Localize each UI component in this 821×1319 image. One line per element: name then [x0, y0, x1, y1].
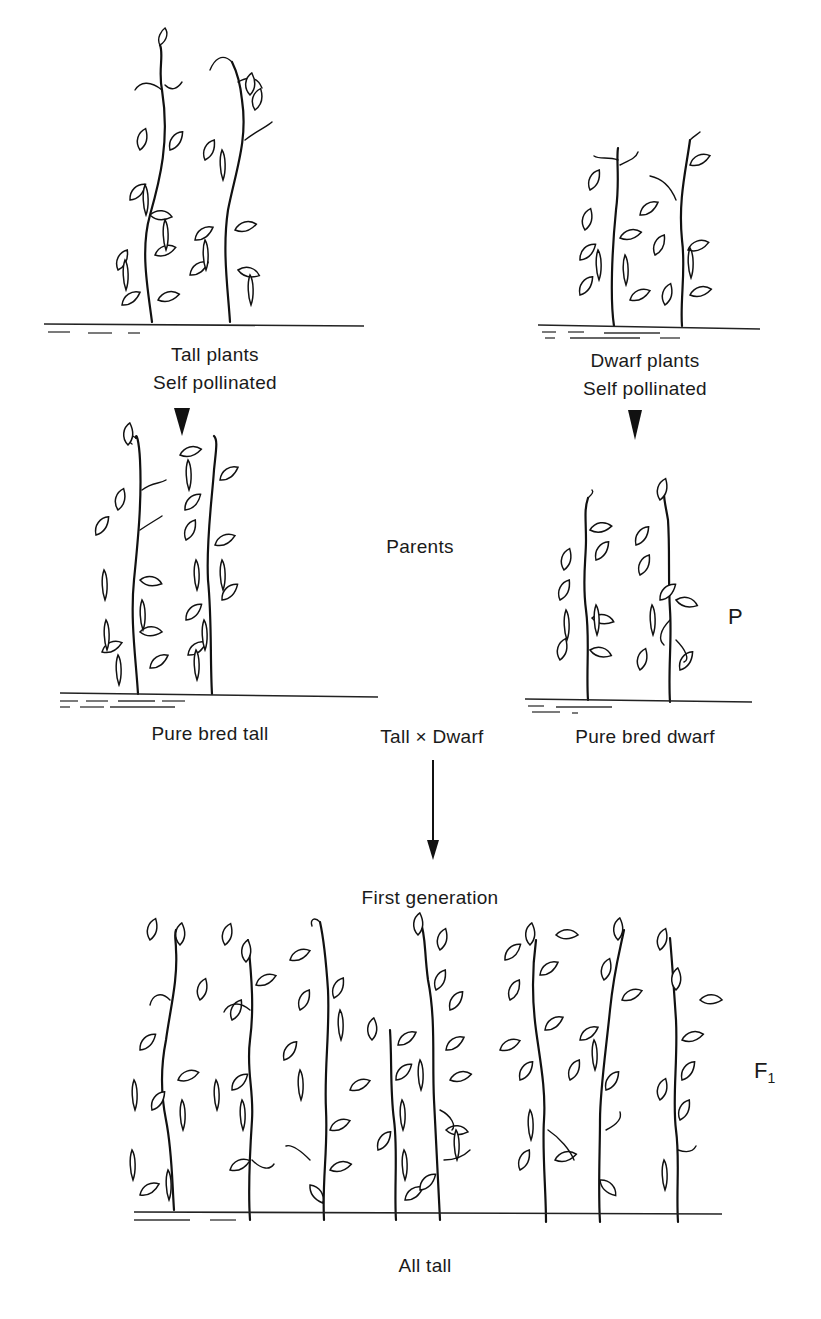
top-dwarf-label-line1: Dwarf plants [540, 350, 750, 372]
plant-icon [575, 148, 651, 326]
top-dwarf-label-line2: Self pollinated [540, 378, 750, 400]
arrow-down-icon [427, 840, 439, 860]
plant-icon [498, 922, 577, 1222]
arrow-down-icon [628, 410, 642, 440]
plant-icon [554, 490, 615, 700]
cross-arrow [427, 760, 439, 860]
plant-icon [179, 436, 241, 694]
parents-label: Parents [360, 536, 480, 558]
arrow-down-icon [174, 408, 190, 436]
parent-tall-plants [60, 422, 378, 707]
top-dwarf-plants [538, 132, 760, 338]
generation-symbol-f-sub: 1 [767, 1070, 775, 1086]
diagram-artwork [0, 0, 821, 1319]
f1-tall-plants [130, 912, 722, 1222]
cross-label: Tall × Dwarf [352, 726, 512, 748]
plant-icon [637, 132, 712, 326]
parent-dwarf-plants [525, 477, 752, 713]
first-generation-label: First generation [330, 887, 530, 909]
offspring-label: All tall [360, 1255, 490, 1277]
plant-icon [113, 28, 187, 322]
plant-icon [412, 912, 472, 1220]
plant-icon [556, 917, 644, 1222]
plant-icon [187, 57, 272, 322]
top-tall-label-line1: Tall plants [110, 344, 320, 366]
ground-line [44, 324, 364, 326]
parent-dwarf-label: Pure bred dwarf [545, 726, 745, 748]
generation-symbol-f: F [754, 1058, 767, 1083]
ground-line [538, 325, 760, 329]
generation-symbol-f1: F1 [754, 1058, 775, 1086]
plant-icon [91, 422, 170, 694]
top-tall-plants [44, 28, 364, 333]
generation-symbol-p: P [728, 604, 743, 630]
ground-line [525, 699, 752, 702]
plant-icon [279, 919, 352, 1220]
plant-icon [654, 927, 722, 1222]
plant-icon [348, 1017, 426, 1220]
top-tall-label-line2: Self pollinated [110, 372, 320, 394]
plant-icon [214, 922, 277, 1220]
ground-line [134, 1212, 722, 1214]
parent-tall-label: Pure bred tall [100, 723, 320, 745]
plant-icon [631, 477, 699, 702]
plant-icon [130, 917, 210, 1210]
ground-line [60, 693, 378, 697]
